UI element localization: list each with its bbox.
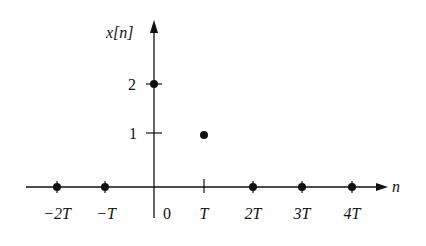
- y-tick-label-2: 2: [128, 76, 136, 93]
- point-n-2T: [249, 183, 257, 191]
- point-n-4T: [348, 183, 356, 191]
- chart-figure: x[n] n 2 1 −2T −T 0 T 2T 3T 4T: [0, 0, 426, 246]
- x-axis-label: n: [392, 178, 400, 195]
- x-tick-label: −2T: [43, 205, 72, 222]
- data-points: [53, 80, 356, 191]
- point-n-minus-2T: [53, 183, 61, 191]
- x-tick-label: 3T: [293, 205, 312, 222]
- x-tick-label: 2T: [245, 205, 263, 222]
- y-axis-label: x[n]: [105, 24, 134, 41]
- point-n-0: [150, 80, 158, 88]
- y-axis-arrow-icon: [150, 20, 158, 33]
- point-n-minus-T: [101, 183, 109, 191]
- point-n-T: [200, 131, 208, 139]
- point-n-3T: [298, 183, 306, 191]
- x-tick-label: T: [200, 205, 210, 222]
- x-axis-arrow-icon: [376, 183, 388, 191]
- y-tick-label-1: 1: [129, 125, 137, 142]
- x-tick-label: −T: [96, 205, 117, 222]
- x-tick-label: 0: [163, 205, 171, 222]
- chart-svg: x[n] n 2 1 −2T −T 0 T 2T 3T 4T: [0, 0, 426, 246]
- x-tick-label: 4T: [344, 205, 362, 222]
